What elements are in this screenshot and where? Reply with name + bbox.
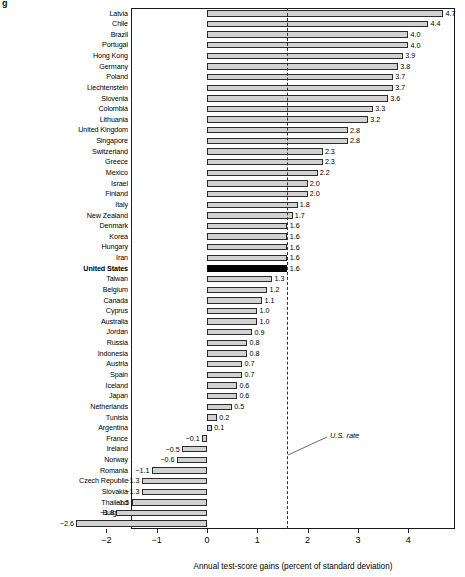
us-rate-leader-line xyxy=(0,0,465,577)
x-axis-tick xyxy=(408,529,409,533)
x-axis-tick xyxy=(106,529,107,533)
x-axis-tick-label: 2 xyxy=(305,536,310,545)
x-axis-tick xyxy=(207,529,208,533)
x-axis-title: Annual test-score gains (percent of stan… xyxy=(194,562,393,571)
bar-chart: g Latvia4.7Chile4.4Brazil4.0Portugal4.0H… xyxy=(0,0,465,577)
x-axis-tick xyxy=(157,529,158,533)
x-axis-tick xyxy=(308,529,309,533)
x-axis-tick-label: 1 xyxy=(255,536,260,545)
x-axis-tick-label: 0 xyxy=(204,536,209,545)
x-axis-tick-label: 3 xyxy=(355,536,360,545)
x-axis-tick xyxy=(358,529,359,533)
x-axis-tick-label: −1 xyxy=(152,536,162,545)
us-rate-annotation-label: U.S. rate xyxy=(330,431,359,440)
x-axis-tick xyxy=(257,529,258,533)
x-axis-tick-label: 4 xyxy=(406,536,411,545)
x-axis-tick-label: −2 xyxy=(101,536,111,545)
